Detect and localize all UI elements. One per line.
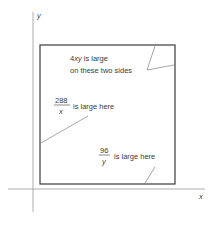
annotation-96-denominator: y	[101, 157, 107, 166]
annotation-96-numerator: 96	[100, 146, 108, 155]
annotation-4xy-line1: 4xy is large	[70, 54, 108, 63]
leader-line-top-edge	[147, 46, 155, 70]
annotation-4xy-line2: on these two sides	[70, 66, 132, 75]
leader-line-right-edge	[147, 65, 174, 70]
annotation-288-text: is large here	[73, 102, 114, 111]
leader-line-bottom-edge	[145, 167, 155, 183]
diagram-canvas: y x 4xy is large on these two sides 288 …	[0, 0, 218, 227]
annotation-96-text: is large here	[114, 152, 155, 161]
annotation-288-numerator: 288	[55, 96, 68, 105]
leader-line-left-edge	[41, 116, 88, 143]
y-axis-label: y	[36, 11, 42, 20]
annotation-288-denominator: x	[58, 107, 63, 116]
x-axis-label: x	[198, 192, 203, 201]
